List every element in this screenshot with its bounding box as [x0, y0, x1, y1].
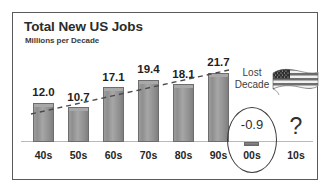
lost-decade-line1: Lost [243, 67, 262, 78]
chart-card: Total New US Jobs Millions per Decade 12… [12, 12, 318, 180]
plot-area: 12.0 40s 10.7 50s 17.1 60s 19.4 70s 18.1… [13, 13, 319, 181]
bar-50s[interactable] [68, 107, 89, 142]
bar-cap [34, 104, 53, 107]
bar-value-50s: 10.7 [58, 91, 99, 103]
future-question-mark: ? [279, 113, 313, 139]
bar-00s[interactable] [244, 142, 259, 146]
bar-cap [69, 108, 88, 111]
bar-value-80s: 18.1 [163, 68, 204, 80]
bar-value-00s: -0.9 [227, 117, 277, 132]
x-axis-label-10s: 10s [279, 149, 313, 161]
x-axis-label-00s: 00s [227, 149, 277, 161]
bar-cap [174, 85, 193, 88]
bar-cap [139, 81, 158, 84]
us-flag-icon [271, 64, 319, 102]
bar-70s[interactable] [138, 80, 159, 142]
bar-60s[interactable] [103, 87, 124, 142]
bar-40s[interactable] [33, 103, 54, 142]
bar-cap [104, 88, 123, 91]
bar-80s[interactable] [173, 84, 194, 142]
lost-decade-line2: Decade [235, 79, 269, 90]
